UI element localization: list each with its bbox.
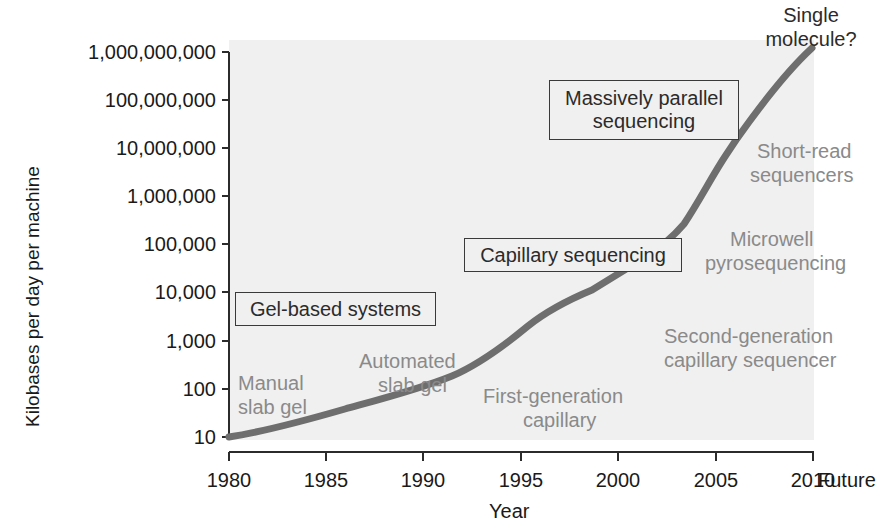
- chart-root: 1,000,000,000 100,000,000 10,000,000 1,0…: [0, 0, 886, 532]
- y-tick-label-100000: 100,000: [30, 234, 216, 254]
- x-tick-label-1985: 1985: [286, 470, 366, 490]
- annotation-manual-slab-gel-line1: Manual: [238, 372, 304, 394]
- y-axis-ticks: [222, 52, 229, 437]
- annotation-microwell-pyrosequencing-line2: pyrosequencing: [705, 252, 846, 274]
- annotation-short-read-sequencers-line1: Short-read: [757, 140, 852, 162]
- y-tick-label-1000: 1,000: [30, 331, 216, 351]
- y-tick-label-100000000: 100,000,000: [30, 90, 216, 110]
- boxed-label-capillary-sequencing: Capillary sequencing: [464, 238, 682, 272]
- annotation-single-molecule-line1: Single: [736, 4, 886, 26]
- annotation-first-generation-capillary-line1: First-generation: [483, 385, 623, 407]
- y-axis-title: Kilobases per day per machine: [22, 166, 44, 427]
- annotation-microwell-pyrosequencing-line1: Microwell: [730, 228, 813, 250]
- annotation-automated-slab-gel-line1: Automated: [359, 350, 456, 372]
- x-axis-title: Year: [489, 500, 529, 523]
- x-axis-ticks: [229, 452, 813, 461]
- y-tick-label-10000: 10,000: [30, 282, 216, 302]
- boxed-label-gel-based-systems: Gel-based systems: [235, 292, 436, 326]
- x-tick-label-1980: 1980: [189, 470, 269, 490]
- y-tick-label-1000000: 1,000,000: [30, 186, 216, 206]
- y-tick-label-1000000000: 1,000,000,000: [30, 42, 216, 62]
- boxed-label-massively-line1: Massively parallel: [565, 87, 723, 110]
- annotation-second-generation-capillary-line1: Second-generation: [664, 325, 833, 347]
- x-tick-label-1990: 1990: [383, 470, 463, 490]
- y-tick-label-100: 100: [30, 379, 216, 399]
- x-tick-label-2000: 2000: [578, 470, 658, 490]
- x-tick-label-future: Future: [818, 470, 886, 490]
- y-tick-label-10: 10: [30, 427, 216, 447]
- x-tick-label-1995: 1995: [481, 470, 561, 490]
- annotation-short-read-sequencers-line2: sequencers: [750, 164, 853, 186]
- annotation-manual-slab-gel-line2: slab gel: [238, 396, 307, 418]
- boxed-label-massively-parallel-sequencing: Massively parallel sequencing: [549, 80, 739, 140]
- annotation-first-generation-capillary-line2: capillary: [523, 409, 596, 431]
- annotation-second-generation-capillary-line2: capillary sequencer: [664, 349, 836, 371]
- annotation-automated-slab-gel-line2: slab gel: [378, 374, 447, 396]
- annotation-single-molecule-line2: molecule?: [736, 28, 886, 50]
- boxed-label-massively-line2: sequencing: [593, 110, 695, 133]
- x-tick-label-2005: 2005: [676, 470, 756, 490]
- y-tick-label-10000000: 10,000,000: [30, 138, 216, 158]
